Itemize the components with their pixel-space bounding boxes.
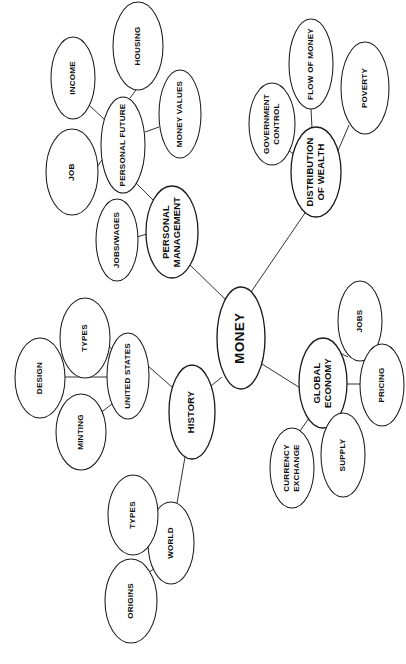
edge-personal-future-to-housing bbox=[130, 90, 136, 98]
mind-map-canvas: PERSONALMANAGEMENTDISTRIBUTIONOF WEALTHG… bbox=[0, 0, 406, 664]
node-money[interactable]: MONEY bbox=[217, 287, 265, 389]
node-label-group-history: HISTORY bbox=[185, 390, 196, 433]
node-label-money-values: MONEY VALUES bbox=[175, 80, 184, 147]
node-label-design: DESIGN bbox=[35, 362, 44, 394]
node-label-flow-of-money: FLOW OF MONEY bbox=[306, 28, 315, 100]
node-label-group-origins: ORIGINS bbox=[126, 583, 135, 619]
node-personal-future[interactable]: PERSONAL FUTURE bbox=[101, 97, 145, 193]
node-label-group-flow-of-money: FLOW OF MONEY bbox=[306, 28, 315, 100]
node-label-group-money-values: MONEY VALUES bbox=[175, 80, 184, 147]
node-history[interactable]: HISTORY bbox=[169, 365, 215, 459]
node-label-government-control: GOVERNMENT bbox=[262, 94, 271, 154]
node-label-group-types-world: TYPES bbox=[128, 501, 137, 529]
node-types-us[interactable]: TYPES bbox=[60, 298, 110, 378]
node-label-group-minting: MINTING bbox=[76, 414, 85, 450]
node-label-pricing: PRICING bbox=[377, 367, 386, 402]
node-label-currency-exchange: CURRENCY bbox=[282, 444, 291, 492]
node-housing[interactable]: HOUSING bbox=[113, 2, 163, 90]
node-label-group-personal-future: PERSONAL FUTURE bbox=[118, 103, 127, 186]
node-label-group-poverty: POVERTY bbox=[360, 68, 369, 108]
node-label-group-design: DESIGN bbox=[35, 362, 44, 394]
node-label-jobs-wages: JOBS/WAGES bbox=[112, 211, 121, 268]
node-label-group-types-us: TYPES bbox=[80, 324, 89, 352]
node-label-global-economy: ECONOMY bbox=[322, 358, 333, 408]
node-label-poverty: POVERTY bbox=[360, 68, 369, 108]
node-label-types-us: TYPES bbox=[80, 324, 89, 352]
mind-map-diagram: PERSONALMANAGEMENTDISTRIBUTIONOF WEALTHG… bbox=[0, 0, 406, 664]
node-label-distribution-of-wealth: DISTRIBUTION bbox=[304, 137, 315, 206]
node-flow-of-money[interactable]: FLOW OF MONEY bbox=[289, 19, 333, 109]
node-label-group-supply: SUPPLY bbox=[338, 438, 347, 471]
node-label-group-pricing: PRICING bbox=[377, 367, 386, 402]
node-label-history: HISTORY bbox=[185, 390, 196, 433]
node-label-group-money: MONEY bbox=[232, 312, 247, 363]
node-personal-management[interactable]: PERSONALMANAGEMENT bbox=[146, 186, 198, 278]
node-label-global-economy: GLOBAL bbox=[311, 363, 322, 404]
node-label-world: WORLD bbox=[166, 527, 175, 559]
node-label-minting: MINTING bbox=[76, 414, 85, 450]
node-types-world[interactable]: TYPES bbox=[108, 475, 158, 555]
edge-global-economy-to-currency-exchange bbox=[300, 418, 309, 431]
node-label-united-states: UNITED STATES bbox=[123, 343, 132, 409]
edge-distribution-of-wealth-to-flow-of-money bbox=[311, 109, 312, 128]
node-design[interactable]: DESIGN bbox=[15, 338, 65, 418]
node-pricing[interactable]: PRICING bbox=[360, 344, 404, 426]
edge-distribution-of-wealth-to-poverty bbox=[337, 125, 349, 153]
node-label-types-world: TYPES bbox=[128, 501, 137, 529]
node-label-jobs: JOBS bbox=[355, 309, 364, 332]
node-label-group-jobs-wages: JOBS/WAGES bbox=[112, 211, 121, 268]
node-label-housing: HOUSING bbox=[133, 26, 142, 65]
node-label-group-personal-management: PERSONALMANAGEMENT bbox=[160, 197, 182, 267]
node-label-income: INCOME bbox=[68, 61, 77, 95]
edge-personal-future-to-income bbox=[89, 105, 106, 121]
edge-money-to-distribution-of-wealth bbox=[249, 213, 305, 295]
node-label-group-world: WORLD bbox=[166, 527, 175, 559]
edge-history-to-world bbox=[177, 457, 185, 503]
node-label-group-global-economy: GLOBALECONOMY bbox=[311, 358, 333, 408]
node-label-job: JOB bbox=[67, 163, 76, 180]
node-label-group-currency-exchange: CURRENCYEXCHANGE bbox=[282, 444, 301, 492]
node-label-group-housing: HOUSING bbox=[133, 26, 142, 65]
edge-money-to-personal-management bbox=[190, 265, 226, 300]
edge-history-to-united-states bbox=[148, 366, 172, 387]
node-label-personal-management: MANAGEMENT bbox=[171, 197, 182, 267]
node-currency-exchange[interactable]: CURRENCYEXCHANGE bbox=[270, 428, 314, 508]
node-job[interactable]: JOB bbox=[46, 129, 98, 215]
node-united-states[interactable]: UNITED STATES bbox=[107, 333, 149, 419]
edge-personal-future-to-money-values bbox=[145, 127, 159, 132]
nodes-layer: PERSONALMANAGEMENTDISTRIBUTIONOF WEALTHG… bbox=[15, 2, 404, 643]
node-money-values[interactable]: MONEY VALUES bbox=[159, 70, 201, 158]
node-label-origins: ORIGINS bbox=[126, 583, 135, 619]
node-poverty[interactable]: POVERTY bbox=[341, 42, 389, 134]
node-distribution-of-wealth[interactable]: DISTRIBUTIONOF WEALTH bbox=[291, 127, 341, 217]
node-label-money: MONEY bbox=[232, 312, 247, 363]
node-label-personal-future: PERSONAL FUTURE bbox=[118, 103, 127, 186]
node-minting[interactable]: MINTING bbox=[56, 394, 106, 470]
node-label-group-income: INCOME bbox=[68, 61, 77, 95]
node-label-group-jobs: JOBS bbox=[355, 309, 364, 332]
node-supply[interactable]: SUPPLY bbox=[321, 413, 365, 497]
node-label-group-united-states: UNITED STATES bbox=[123, 343, 132, 409]
node-label-currency-exchange: EXCHANGE bbox=[292, 444, 301, 492]
node-label-personal-management: PERSONAL bbox=[160, 205, 171, 259]
node-label-supply: SUPPLY bbox=[338, 438, 347, 471]
node-income[interactable]: INCOME bbox=[51, 37, 95, 119]
node-origins[interactable]: ORIGINS bbox=[105, 559, 157, 643]
node-label-distribution-of-wealth: OF WEALTH bbox=[315, 144, 326, 201]
node-government-control[interactable]: GOVERNMENTCONTROL bbox=[249, 83, 295, 165]
node-label-government-control: CONTROL bbox=[272, 103, 281, 144]
node-jobs-wages[interactable]: JOBS/WAGES bbox=[96, 199, 138, 281]
node-label-group-distribution-of-wealth: DISTRIBUTIONOF WEALTH bbox=[304, 137, 326, 206]
node-label-group-job: JOB bbox=[67, 163, 76, 180]
